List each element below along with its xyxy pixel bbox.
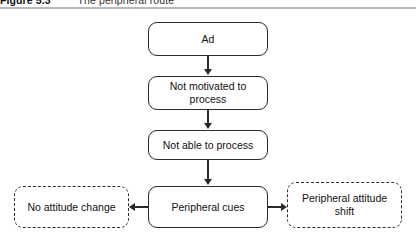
connector-peripheral-cues-to-peripheral-attitude-shift <box>268 206 281 207</box>
caption-divider <box>0 7 416 9</box>
arrowhead-ad-to-not-motivated <box>204 69 212 75</box>
flow-node-not-able-label: Not able to process <box>163 139 253 152</box>
flow-node-peripheral-attitude-shift-label: Peripheral attitude shift <box>292 192 397 218</box>
flow-node-peripheral-attitude-shift: Peripheral attitude shift <box>287 182 402 228</box>
arrowhead-peripheral-cues-to-no-attitude-change <box>129 203 135 211</box>
connector-ad-to-not-motivated <box>207 56 208 70</box>
connector-not-able-to-peripheral-cues <box>207 160 208 180</box>
arrowhead-not-able-to-peripheral-cues <box>204 179 212 185</box>
flow-node-ad-label: Ad <box>202 33 215 46</box>
figure-peripheral-route: Figure 5.3 The peripheral route Ad Not m… <box>0 0 416 237</box>
flow-node-peripheral-cues: Peripheral cues <box>148 186 268 228</box>
flow-node-not-motivated-label: Not motivated to process <box>153 80 263 106</box>
figure-caption-text: The peripheral route <box>78 0 175 6</box>
flow-node-no-attitude-change: No attitude change <box>14 186 129 228</box>
arrowhead-not-motivated-to-not-able <box>204 123 212 129</box>
connector-peripheral-cues-to-no-attitude-change <box>135 206 148 207</box>
flow-node-ad: Ad <box>148 22 268 56</box>
flow-node-not-able: Not able to process <box>148 130 268 160</box>
flow-node-not-motivated: Not motivated to process <box>148 76 268 110</box>
figure-number: Figure 5.3 <box>0 0 51 6</box>
arrowhead-peripheral-cues-to-peripheral-attitude-shift <box>281 203 287 211</box>
figure-caption-row: Figure 5.3 The peripheral route <box>0 0 416 7</box>
flow-node-no-attitude-change-label: No attitude change <box>27 201 115 214</box>
connector-not-motivated-to-not-able <box>207 110 208 124</box>
flow-node-peripheral-cues-label: Peripheral cues <box>172 201 245 214</box>
